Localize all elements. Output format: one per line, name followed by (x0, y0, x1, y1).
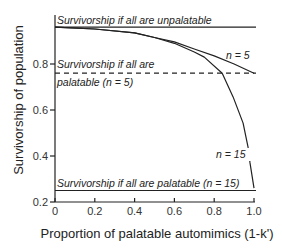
x-tick-label: 0 (52, 205, 58, 217)
y-ticks: 0.20.40.60.8 (33, 58, 55, 208)
label-all-unpalatable: Survivorship if all are unpalatable (57, 14, 212, 26)
x-tick-label: 0.2 (87, 205, 102, 217)
y-tick-label: 0.8 (33, 58, 48, 70)
label-n5: n = 5 (226, 49, 250, 61)
y-tick-label: 0.2 (33, 196, 48, 208)
series-curves (55, 27, 254, 188)
label-n15: n = 15 (216, 148, 246, 160)
label-all-palatable-n5-line2: palatable (n = 5) (56, 76, 133, 88)
x-tick-label: 0.8 (207, 205, 222, 217)
label-gap (245, 148, 253, 161)
x-ticks: 00.20.40.60.81.0 (52, 198, 262, 217)
survivorship-chart: 0.20.40.60.8 00.20.40.60.81.0 Survivorsh… (0, 0, 282, 250)
label-all-palatable-n15: Survivorship if all are palatable (n = 1… (57, 177, 239, 189)
label-all-palatable-n5-line1: Survivorship if all are (57, 58, 155, 70)
x-tick-label: 0.4 (127, 205, 142, 217)
x-tick-label: 0.6 (167, 205, 182, 217)
x-axis-label: Proportion of palatable automimics (1-k'… (41, 226, 274, 241)
curve-n15 (55, 27, 254, 188)
x-tick-label: 1.0 (246, 205, 261, 217)
y-axis-label: Survivorship of population (11, 25, 26, 175)
y-tick-label: 0.4 (33, 150, 48, 162)
y-tick-label: 0.6 (33, 104, 48, 116)
